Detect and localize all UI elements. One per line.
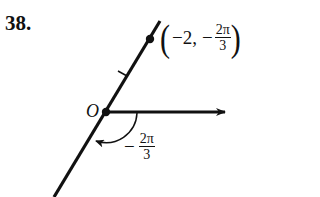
close-paren: ) [231,19,241,57]
origin-dot [102,108,110,116]
angle-label: − 2π 3 [124,131,155,162]
point-coordinates-label: ( −2, − 2π 3 ) [160,22,241,53]
theta-fraction: 2π 3 [215,22,231,53]
point-dot [146,35,154,43]
angle-denominator: 3 [143,147,150,162]
angle-numerator: 2π [139,131,155,147]
theta-sign: − [202,27,213,49]
angle-fraction: 2π 3 [139,131,155,162]
theta-numerator: 2π [215,22,231,38]
origin-label: O [86,101,99,122]
theta-denominator: 3 [219,38,226,53]
angle-sign: − [124,136,135,158]
open-paren: ( [160,19,170,57]
unit-tick-mark [118,71,127,76]
r-value: −2, [172,27,197,49]
